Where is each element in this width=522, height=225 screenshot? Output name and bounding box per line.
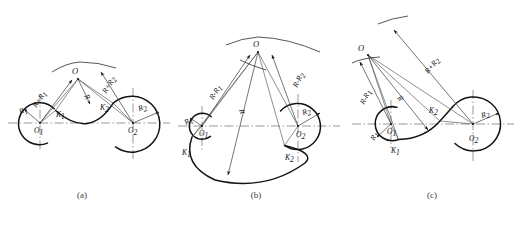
swing-arc-small-b xyxy=(240,60,266,70)
panel-b-labels: O O1 O2 R1 R2 R K1 K2 R-R1 R-R2 xyxy=(181,39,312,164)
line-o-to-k1-b xyxy=(192,52,258,137)
point-o-c xyxy=(367,54,369,56)
label-k1-c: K1 xyxy=(390,146,400,157)
panel-a-labels: O O1 O2 R1 R2 R K1 K2 R+R1 R+R2 xyxy=(17,66,149,137)
label-o-b: O xyxy=(253,39,259,49)
label-o2-c: O2 xyxy=(469,134,478,145)
label-k2-b: K2 xyxy=(284,153,294,164)
point-o-b xyxy=(257,51,259,53)
point-o1-c xyxy=(390,123,392,125)
label-r-c: R xyxy=(395,93,406,103)
point-o2-a xyxy=(132,122,134,124)
panel-b-geometry xyxy=(178,37,340,184)
caption-panel-b: (b) xyxy=(236,190,276,200)
label-o1-b: O1 xyxy=(199,129,208,140)
label-r1-c: R1 xyxy=(368,130,382,144)
caption-panel-a: (a) xyxy=(62,190,102,200)
label-r2-a: R2 xyxy=(136,102,148,115)
line-o-to-o2-b xyxy=(258,52,298,126)
dim-arrow-r2-a xyxy=(133,112,159,123)
point-o1-a xyxy=(39,122,41,124)
panel-c-labels: O O1 O2 R1 R2 R K1 K2 R-R1 R+R2 xyxy=(357,43,491,157)
point-o1-b xyxy=(201,125,203,127)
label-o2-b: O2 xyxy=(296,130,305,141)
label-dif-r1-b: R-R1 xyxy=(207,83,225,103)
point-o2-c xyxy=(472,123,474,125)
label-k1-b: K1 xyxy=(181,148,191,159)
label-o-c: O xyxy=(358,43,364,53)
dim-arrow-r-c xyxy=(368,55,428,130)
label-r-b: R xyxy=(237,107,247,115)
label-o-a: O xyxy=(72,66,78,76)
point-o-a xyxy=(77,78,79,80)
label-k2-c: K2 xyxy=(428,106,438,117)
caption-panel-c: (c) xyxy=(412,190,452,200)
label-k1-a: K1 xyxy=(55,110,65,121)
point-o2-b xyxy=(297,125,299,127)
label-r2-c: R2 xyxy=(479,109,492,122)
line-o2-to-k2-a xyxy=(113,103,133,123)
label-sum-r2-c: R+R2 xyxy=(422,55,443,77)
figure-root: O O1 O2 R1 R2 R K1 K2 R+R1 R+R2 xyxy=(0,0,522,225)
label-o1-a: O1 xyxy=(34,126,43,137)
label-dif-r1-c: R-R1 xyxy=(357,88,375,108)
label-sum-r1-a: R+R1 xyxy=(30,89,50,111)
connecting-arc-c xyxy=(399,107,453,140)
label-r-a: R xyxy=(82,92,93,102)
swing-arc-right-b xyxy=(258,37,320,52)
line-o2-to-k2-c xyxy=(440,121,473,124)
swing-arc-right-a xyxy=(80,62,116,68)
label-sum-r2-a: R+R2 xyxy=(100,75,120,97)
line-o-to-o2-c xyxy=(368,55,473,124)
label-k2-a: K2 xyxy=(99,103,109,114)
swing-arc-top-c xyxy=(378,16,408,24)
label-o2-a: O2 xyxy=(128,126,137,137)
line-o-to-k2-b xyxy=(258,52,285,146)
line-o-to-k1-a xyxy=(56,79,79,111)
label-o1-c: O1 xyxy=(387,127,396,138)
label-dif-r2-b: R-R2 xyxy=(290,71,307,91)
